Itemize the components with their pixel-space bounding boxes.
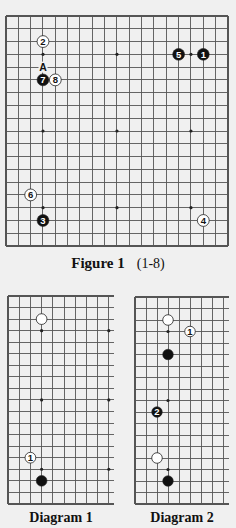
diagram2-grid-lines [135,297,229,504]
diagram2-go-board: 12 [135,297,229,504]
star-point [107,329,110,332]
white-stone [36,314,47,325]
move-number: 5 [176,49,182,60]
white-stone [163,315,174,326]
star-point [115,129,118,132]
move-number: 2 [154,406,159,417]
star-point [166,330,169,333]
star-point [166,468,169,471]
black-stone-move-2: 2 [152,406,163,417]
move-number: 4 [201,215,207,226]
star-point [40,398,43,401]
black-stone [163,349,174,360]
star-point [41,206,44,209]
move-number: 2 [40,36,45,47]
star-point [107,398,110,401]
black-stone [163,476,174,487]
black-stone-move-5: 5 [173,48,185,60]
move-number: 1 [201,49,207,60]
white-stone-move-8: 8 [49,74,61,86]
diagram2-caption: Diagram 2 [135,510,229,526]
diagram1-caption: Diagram 1 [8,510,114,526]
move-number: 7 [40,74,45,85]
star-point [41,129,44,132]
black-stone [36,475,47,486]
figure1-move-range: (1-8) [137,256,165,271]
star-point [115,206,118,209]
move-number: 6 [28,189,33,200]
star-point [189,53,192,56]
figure1-caption: Figure 1(1-8) [0,255,236,272]
star-point [189,129,192,132]
point-label-A: A [39,61,47,73]
star-point [107,468,110,471]
star-point [40,468,43,471]
white-stone-move-6: 6 [25,189,37,201]
white-stone-move-1: 1 [25,452,36,463]
white-stone-move-4: 4 [197,215,209,227]
star-point [115,53,118,56]
star-point [189,206,192,209]
diagram1-go-board: 1 [8,296,114,504]
move-number: 3 [40,215,45,226]
move-number: 1 [187,326,193,337]
move-number: 1 [28,452,34,463]
white-stone-move-1: 1 [185,326,196,337]
diagram1-grid-lines [8,296,114,504]
star-point [41,53,44,56]
star-point [166,399,169,402]
star-point [40,329,43,332]
figure1-go-board: 12345678A [6,16,228,246]
black-stone-move-3: 3 [37,215,49,227]
white-stone-move-2: 2 [37,36,49,48]
black-stone-move-1: 1 [197,48,209,60]
black-stone-move-7: 7 [37,74,49,86]
white-stone [152,453,163,464]
move-number: 8 [53,74,58,85]
figure1-title: Figure 1 [71,255,124,271]
